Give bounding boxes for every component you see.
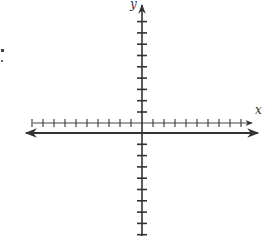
coordinate-plane: x y	[0, 0, 277, 243]
x-axis-label: x	[255, 103, 262, 117]
stray-mark	[1, 49, 4, 62]
y-axis	[137, 5, 147, 236]
y-axis-label: y	[129, 0, 137, 11]
